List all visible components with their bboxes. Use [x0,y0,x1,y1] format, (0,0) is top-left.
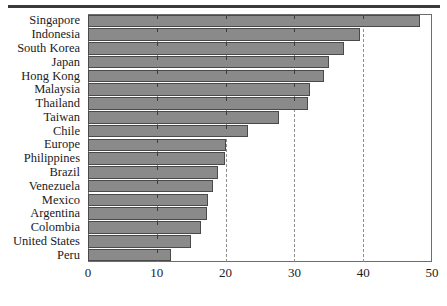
bar-tick-mark [157,221,158,225]
bar-tick-mark [294,97,295,101]
x-axis-tick-label: 0 [85,266,92,279]
y-axis-label: Argentina [30,207,80,220]
bar-tick-mark [294,70,295,74]
bar-tick-mark [294,42,295,46]
bar [88,56,329,69]
y-axis-label: South Korea [17,42,80,55]
bar [88,221,201,234]
bar-tick-mark [226,125,227,129]
bar-tick-mark [226,70,227,74]
x-axis-tick-label: 40 [357,266,370,279]
bar [88,180,213,193]
y-axis-label: Peru [57,249,80,262]
bar-tick-mark [157,139,158,143]
bar [88,194,208,207]
bar-tick-mark [294,83,295,87]
y-axis-category-labels: SingaporeIndonesiaSouth KoreaJapanHong K… [0,14,84,262]
bar-tick-mark [363,15,364,19]
bar-tick-mark [157,56,158,60]
y-axis-label: Taiwan [43,111,80,124]
bar-tick-mark [157,15,158,19]
bar-tick-mark [157,42,158,46]
bar-tick-mark [157,249,158,253]
bar-tick-mark [294,28,295,32]
y-axis-label: Europe [44,138,80,151]
bar-tick-mark [157,152,158,156]
bar-tick-mark [226,56,227,60]
bar-tick-mark [157,194,158,198]
header-rule [8,5,440,8]
bar-tick-mark [226,111,227,115]
bar [88,235,191,248]
bar-tick-mark [157,180,158,184]
bar-tick-mark [226,15,227,19]
bar [88,249,171,262]
bar [88,15,420,28]
y-axis-label: Japan [52,56,80,69]
bar-tick-mark [157,70,158,74]
plot-area [88,14,432,262]
y-axis-label: United States [13,235,80,248]
y-axis-label: Brazil [49,166,80,179]
bar [88,111,279,124]
y-axis-label: Hong Kong [21,70,80,83]
bar [88,42,344,55]
bar-tick-mark [226,42,227,46]
bar-tick-mark [294,56,295,60]
bar-tick-mark [157,125,158,129]
bar-tick-mark [157,207,158,211]
bar-tick-mark [226,83,227,87]
bar [88,125,248,138]
x-axis-tick-labels: 01020304050 [88,266,432,286]
bar-tick-mark [226,97,227,101]
x-axis-tick-label: 30 [288,266,301,279]
bar-tick-mark [226,28,227,32]
x-axis-tick-label: 20 [219,266,232,279]
bar-tick-mark [157,166,158,170]
y-axis-label: Chile [53,125,80,138]
x-axis-tick-label: 10 [150,266,163,279]
bar-tick-mark [157,83,158,87]
y-axis-label: Mexico [42,194,80,207]
y-axis-label: Venezuela [29,180,80,193]
bar-chart-figure: SingaporeIndonesiaSouth KoreaJapanHong K… [0,0,447,306]
bar-tick-mark [157,28,158,32]
y-axis-label: Malaysia [34,83,80,96]
y-axis-label: Colombia [31,221,80,234]
bar [88,83,310,96]
bar-tick-mark [294,15,295,19]
bar-tick-mark [157,97,158,101]
bar [88,166,218,179]
bar-tick-mark [157,235,158,239]
bar [88,28,360,41]
y-axis-label: Philippines [24,152,80,165]
y-axis-label: Singapore [29,14,80,27]
bar-series [88,14,432,262]
bar [88,70,324,83]
bar [88,97,308,110]
x-axis-tick-label: 50 [426,266,439,279]
y-axis-label: Thailand [36,97,80,110]
y-axis-label: Indonesia [31,28,80,41]
bar [88,207,207,220]
bar-tick-mark [157,111,158,115]
